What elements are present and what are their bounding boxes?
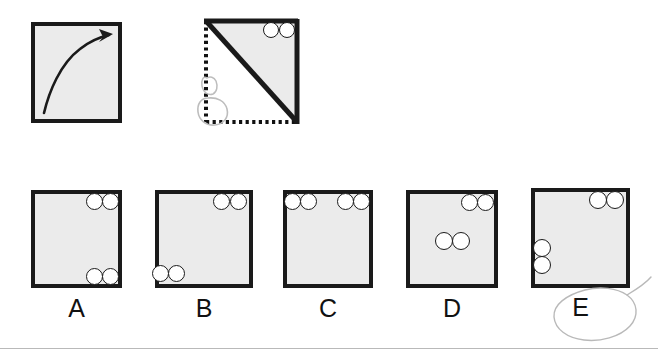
hole [263, 22, 279, 38]
fold-instruction-square [31, 22, 122, 123]
option-A-label: A [31, 296, 122, 321]
option-D-label: D [406, 296, 498, 321]
hole [533, 256, 551, 274]
page-separator-rule [0, 348, 658, 349]
folded-figure-square [203, 18, 300, 125]
option-A-square[interactable] [31, 190, 122, 288]
hole [230, 193, 247, 210]
hole [300, 193, 317, 210]
hole [168, 265, 185, 282]
option-C-label: C [283, 296, 373, 321]
option-C-square[interactable] [283, 190, 373, 288]
test-item-canvas: A B C D E [0, 0, 658, 361]
hole [606, 191, 624, 209]
hole [477, 194, 494, 211]
hole [86, 193, 103, 210]
hole [435, 232, 453, 250]
option-E-square[interactable] [531, 188, 630, 288]
option-D-square[interactable] [406, 190, 498, 288]
hole [102, 193, 119, 210]
option-B-square[interactable] [155, 190, 253, 288]
hole [102, 268, 119, 285]
hole [337, 193, 354, 210]
square-outline [31, 22, 122, 123]
hole [589, 191, 607, 209]
hole [533, 239, 551, 257]
hole [353, 193, 370, 210]
page-showthrough-artifact [188, 86, 191, 102]
hole [461, 194, 478, 211]
option-B-label: B [155, 296, 253, 321]
hole [213, 193, 230, 210]
hole [279, 22, 295, 38]
hole [284, 193, 301, 210]
option-E-label: E [531, 295, 630, 320]
hole [86, 268, 103, 285]
hole [452, 232, 470, 250]
hole [152, 265, 169, 282]
